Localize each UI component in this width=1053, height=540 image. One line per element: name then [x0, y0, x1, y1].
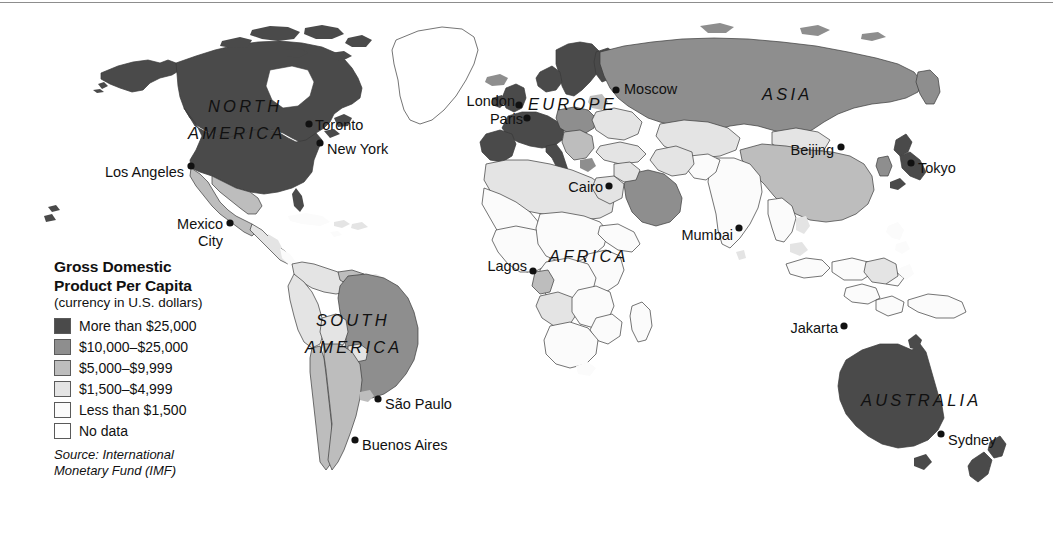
- legend-item-label: Less than $1,500: [79, 402, 186, 418]
- city-label-paris: Paris: [490, 111, 523, 127]
- continent-label-north-america: NORTH: [208, 97, 282, 115]
- city-label-toronto: Toronto: [315, 117, 363, 133]
- gdp-world-map-figure: Los AngelesTorontoNew YorkMexicoCitySão …: [0, 0, 1053, 540]
- city-label-sao-paulo: São Paulo: [385, 396, 452, 412]
- legend-title-line2: Product Per Capita: [54, 277, 239, 295]
- city-dot-sydney: [937, 430, 944, 437]
- legend-item: $5,000–$9,999: [54, 357, 239, 378]
- legend-source-line1: Source: International: [54, 447, 229, 463]
- city-dot-jakarta: [840, 322, 847, 329]
- continent-label-south-america-2: AMERICA: [304, 338, 403, 356]
- legend-swatch: [54, 339, 71, 355]
- city-label-cairo: Cairo: [568, 179, 603, 195]
- continent-label-australia: AUSTRALIA: [860, 391, 982, 409]
- city-dot-mexico-city: [226, 219, 233, 226]
- legend-item-list: More than $25,000$10,000–$25,000$5,000–$…: [54, 315, 239, 441]
- city-dot-paris: [523, 114, 530, 121]
- city-label-buenos-aires: Buenos Aires: [362, 437, 447, 453]
- city-dot-tokyo: [907, 159, 914, 166]
- legend-swatch: [54, 360, 71, 376]
- legend-source-note: Source: International Monetary Fund (IMF…: [54, 447, 229, 478]
- continent-label-north-america-2: AMERICA: [187, 124, 286, 142]
- legend-source-line2: Monetary Fund (IMF): [54, 463, 229, 479]
- city-label-lagos: Lagos: [487, 258, 527, 274]
- city-dot-toronto: [305, 120, 312, 127]
- city-dot-lagos: [529, 267, 536, 274]
- city-label-los-angeles: Los Angeles: [105, 164, 184, 180]
- continent-label-asia: ASIA: [761, 85, 812, 103]
- city-dot-moscow: [612, 86, 619, 93]
- continent-label-africa: AFRICA: [548, 247, 629, 265]
- city-label-tokyo: Tokyo: [918, 160, 956, 176]
- city-label-mexico-city-2: City: [198, 233, 224, 249]
- city-label-mexico-city: Mexico: [177, 216, 223, 232]
- city-label-sydney: Sydney: [948, 432, 997, 448]
- legend-swatch: [54, 318, 71, 334]
- city-dot-new-york: [316, 139, 323, 146]
- city-label-mumbai: Mumbai: [681, 227, 733, 243]
- legend-item-label: $1,500–$4,999: [79, 381, 172, 397]
- city-dot-london: [515, 101, 522, 108]
- city-dot-mumbai: [735, 224, 742, 231]
- legend-title-line1: Gross Domestic: [54, 258, 239, 276]
- city-label-jakarta: Jakarta: [790, 320, 838, 336]
- city-dot-los-angeles: [187, 162, 194, 169]
- city-dot-sao-paulo: [374, 395, 381, 402]
- city-dot-buenos-aires: [351, 436, 358, 443]
- continent-label-south-america: SOUTH: [316, 311, 390, 329]
- legend-swatch: [54, 381, 71, 397]
- city-label-beijing: Beijing: [790, 142, 834, 158]
- legend-item: More than $25,000: [54, 315, 239, 336]
- city-dot-cairo: [605, 182, 612, 189]
- legend-swatch: [54, 423, 71, 439]
- city-label-moscow: Moscow: [624, 81, 678, 97]
- legend-item-label: No data: [79, 423, 128, 439]
- legend-item: $10,000–$25,000: [54, 336, 239, 357]
- legend-item: $1,500–$4,999: [54, 378, 239, 399]
- city-label-new-york: New York: [327, 141, 389, 157]
- legend-item-label: $5,000–$9,999: [79, 360, 172, 376]
- legend-item-label: More than $25,000: [79, 318, 197, 334]
- map-legend: Gross Domestic Product Per Capita (curre…: [54, 258, 239, 478]
- city-dot-beijing: [837, 143, 844, 150]
- legend-item: No data: [54, 420, 239, 441]
- legend-item: Less than $1,500: [54, 399, 239, 420]
- continent-label-europe: EUROPE: [528, 95, 617, 113]
- legend-subtitle: (currency in U.S. dollars): [54, 295, 239, 311]
- legend-swatch: [54, 402, 71, 418]
- legend-item-label: $10,000–$25,000: [79, 339, 188, 355]
- city-label-london: London: [467, 93, 515, 109]
